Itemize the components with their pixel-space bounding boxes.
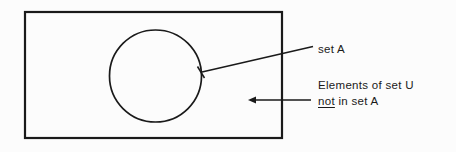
complement-arrowhead xyxy=(248,96,256,103)
set-a-circle xyxy=(110,30,202,122)
complement-emphasis-not: not xyxy=(318,95,335,107)
complement-label: Elements of set U not in set A xyxy=(318,78,414,109)
universal-set-rectangle xyxy=(25,12,282,138)
set-a-leader-line xyxy=(202,47,313,73)
venn-diagram-figure: set A Elements of set U not in set A xyxy=(0,0,456,152)
complement-label-line2: not in set A xyxy=(318,94,414,110)
complement-label-line2-rest: in set A xyxy=(335,95,379,107)
set-a-label: set A xyxy=(318,43,345,56)
diagram-canvas xyxy=(0,0,456,152)
complement-label-line1: Elements of set U xyxy=(318,78,414,94)
set-a-label-text: set A xyxy=(318,43,345,55)
